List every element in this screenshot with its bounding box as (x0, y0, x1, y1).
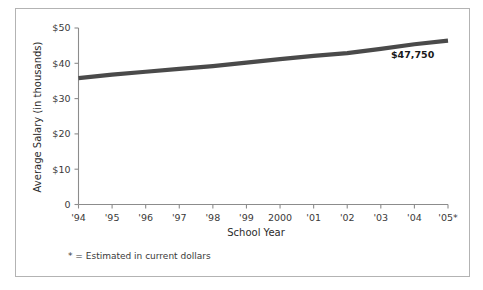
x-tick-label: 2000 (268, 212, 292, 223)
x-tick-label: '04 (407, 212, 422, 223)
y-tick-label: $10 (52, 164, 70, 175)
x-tick-label: '05* (438, 212, 458, 223)
line-chart-svg: 0$10$20$30$40$50 '94'95'96'97'98'992000'… (0, 0, 483, 290)
end-value-label: $47,750 (391, 49, 435, 60)
x-tick-label: '98 (206, 212, 221, 223)
chart-figure: 0$10$20$30$40$50 '94'95'96'97'98'992000'… (0, 0, 483, 290)
x-tick-label: '96 (138, 212, 153, 223)
y-tick-group: 0$10$20$30$40$50 (52, 22, 78, 210)
x-axis-title: School Year (227, 227, 285, 238)
y-tick-label: $30 (52, 93, 70, 104)
x-tick-label: '94 (71, 212, 86, 223)
y-tick-label: 0 (64, 199, 70, 210)
x-tick-label: '97 (172, 212, 187, 223)
y-tick-label: $20 (52, 128, 70, 139)
y-tick-label: $50 (52, 22, 70, 33)
footnote-text: * = Estimated in current dollars (68, 251, 211, 261)
x-tick-label: '95 (105, 212, 120, 223)
x-tick-group: '94'95'96'97'98'992000'01'02'03'04'05* (71, 205, 458, 223)
x-tick-label: '01 (306, 212, 321, 223)
x-tick-label: '99 (239, 212, 254, 223)
y-axis-title: Average Salary (in thousands) (32, 41, 43, 192)
x-tick-label: '02 (340, 212, 355, 223)
x-tick-label: '03 (373, 212, 388, 223)
y-tick-label: $40 (52, 58, 70, 69)
